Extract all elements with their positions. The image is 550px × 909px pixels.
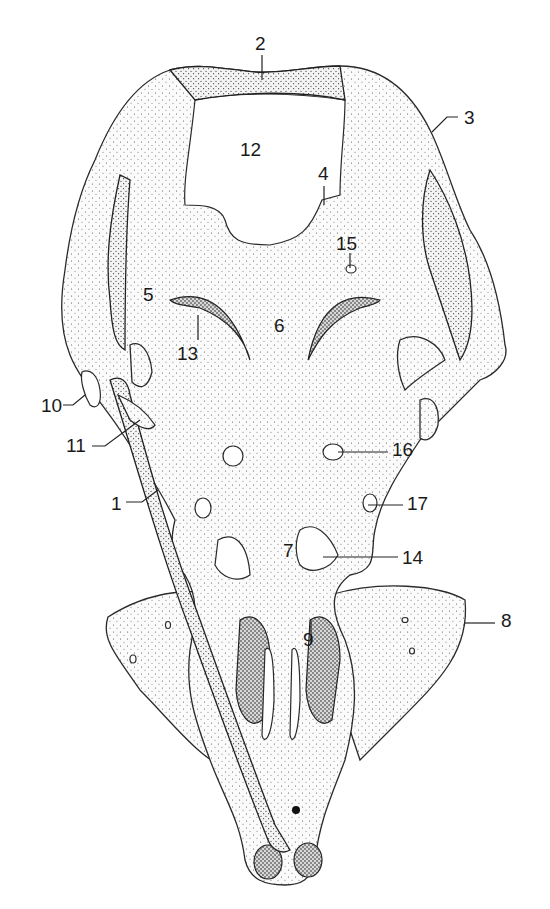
label-3: 3 [464,108,475,127]
foramen-17 [363,494,377,512]
label-6: 6 [274,316,285,335]
skull-illustration: 1 2 3 4 5 6 7 8 9 10 11 12 13 14 15 16 1… [0,0,550,909]
label-10: 10 [41,396,62,415]
label-14: 14 [402,548,423,567]
label-17: 17 [407,494,428,513]
label-9: 9 [303,630,314,649]
label-12: 12 [240,140,261,159]
label-13: 13 [177,344,198,363]
nerve-right-2 [420,399,438,440]
label-8: 8 [501,611,512,630]
label-15: 15 [336,234,357,253]
label-7: 7 [283,541,294,560]
small-pit [292,806,300,814]
foramen-15 [346,265,356,273]
label-2: 2 [255,34,266,53]
label-11: 11 [66,436,86,455]
label-1: 1 [111,494,122,513]
nostril-right [294,843,322,877]
foramen-left-lower [195,498,211,518]
label-5: 5 [143,285,154,304]
label-4: 4 [318,164,329,183]
label-16: 16 [392,440,413,459]
foramen-left [223,446,243,466]
